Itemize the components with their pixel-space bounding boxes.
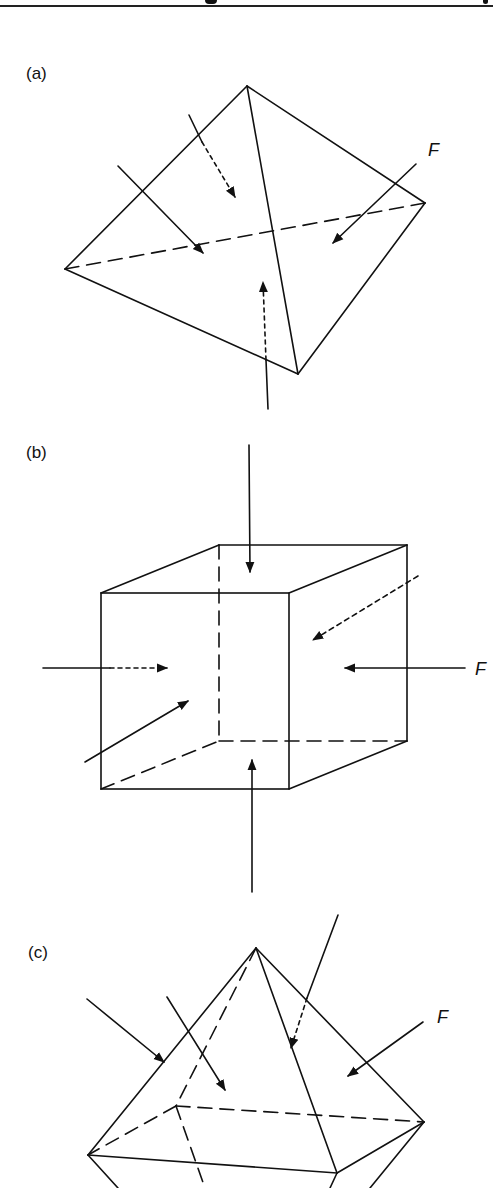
panel-c-octahedron — [87, 915, 424, 1188]
panel-label-b: (b) — [26, 443, 47, 463]
panel-label-a: (a) — [26, 64, 47, 84]
diagram-canvas — [0, 0, 493, 1188]
figure: (a) F (b) F (c) F — [0, 0, 493, 1188]
force-label-c: F — [437, 1007, 448, 1028]
panel-b-cube — [43, 445, 465, 892]
panel-a-tetrahedron — [65, 86, 425, 409]
force-label-a: F — [428, 140, 439, 161]
panel-label-c: (c) — [28, 943, 48, 963]
force-label-b: F — [475, 659, 486, 680]
